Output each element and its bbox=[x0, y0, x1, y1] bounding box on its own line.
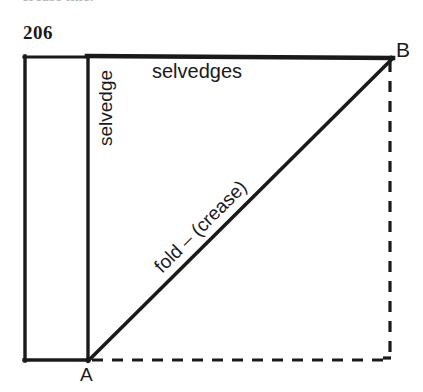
vertex-point-a bbox=[86, 358, 91, 363]
vertex-point-b bbox=[389, 56, 394, 61]
figure-page: crease line. 206 selvedges selvedge fold… bbox=[0, 0, 423, 392]
fold-crease-diagonal-line bbox=[88, 59, 392, 361]
fabric-fold-diagram bbox=[0, 0, 423, 392]
selvedges-top-edge bbox=[87, 56, 393, 58]
label-point-b: B bbox=[396, 38, 410, 62]
label-point-a: A bbox=[80, 364, 93, 386]
label-selvedges: selvedges bbox=[152, 60, 242, 83]
label-selvedge-vertical: selvedge bbox=[95, 70, 117, 146]
